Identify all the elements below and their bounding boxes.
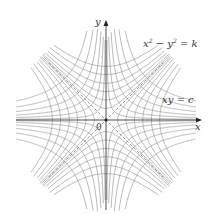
x-axis-label: x xyxy=(195,121,201,132)
y-axis-label: y xyxy=(95,16,101,27)
level-curves-diagram xyxy=(0,0,213,214)
equation-label-xy-c: xy = c xyxy=(162,94,194,105)
equation-label-x2-y2-k: x2 − y2 = k xyxy=(143,37,198,49)
origin-label: 0 xyxy=(96,122,102,132)
